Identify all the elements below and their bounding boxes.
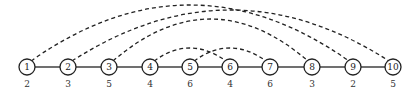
node-2: 23: [60, 59, 76, 89]
node-10: 105: [385, 59, 401, 89]
node-weight-label: 3: [309, 79, 315, 89]
node-id-label: 2: [65, 62, 71, 72]
node-id-label: 3: [106, 62, 112, 72]
node-id-label: 8: [309, 62, 315, 72]
node-weight-label: 4: [147, 79, 153, 89]
node-8: 83: [304, 59, 320, 89]
node-weight-label: 6: [267, 79, 273, 89]
node-id-label: 9: [350, 62, 356, 72]
node-weight-label: 5: [106, 79, 112, 89]
node-weight-label: 3: [65, 79, 71, 89]
node-4: 44: [142, 59, 158, 89]
node-weight-label: 5: [390, 79, 396, 89]
graph-canvas: 122335445664768392105: [0, 0, 417, 94]
dashed-arc-2-10: [72, 10, 389, 61]
node-1: 12: [19, 59, 35, 89]
node-9: 92: [345, 59, 361, 89]
node-3: 35: [101, 59, 117, 89]
node-weight-label: 6: [187, 79, 193, 89]
node-weight-label: 2: [350, 79, 356, 89]
node-weight-label: 4: [227, 79, 233, 89]
graph-diagram: 122335445664768392105: [0, 0, 417, 94]
node-id-label: 7: [267, 62, 273, 72]
node-weight-label: 2: [24, 79, 30, 89]
nodes: 122335445664768392105: [19, 59, 401, 89]
node-id-label: 5: [187, 62, 193, 72]
node-5: 56: [182, 59, 198, 89]
node-7: 76: [262, 59, 278, 89]
node-id-label: 1: [24, 62, 30, 72]
node-id-label: 10: [387, 62, 399, 72]
node-id-label: 6: [227, 62, 233, 72]
node-id-label: 4: [147, 62, 153, 72]
node-6: 64: [222, 59, 238, 89]
dashed-arcs: [31, 5, 389, 61]
